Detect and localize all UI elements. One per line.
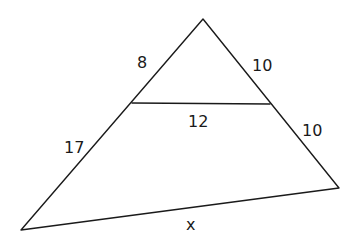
parallel-segment — [132, 103, 270, 104]
label-upper-right: 10 — [252, 56, 272, 75]
label-upper-left: 8 — [137, 53, 147, 72]
label-midsegment: 12 — [188, 112, 208, 131]
outer-triangle — [21, 19, 339, 230]
label-lower-left: 17 — [64, 138, 84, 157]
label-base: x — [186, 215, 195, 234]
triangle-diagram: 8 10 12 10 17 x — [0, 0, 359, 239]
label-lower-right: 10 — [302, 121, 322, 140]
